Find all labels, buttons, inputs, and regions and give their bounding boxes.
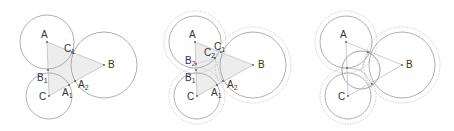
panel-3: A B C	[315, 11, 440, 124]
triangle-abc-shading	[47, 42, 104, 96]
label-b: B	[258, 59, 265, 70]
point-a	[345, 41, 347, 43]
label-c1: C1	[214, 41, 225, 53]
point-b	[252, 64, 254, 66]
point-a	[194, 41, 196, 43]
label-c: C	[338, 91, 345, 102]
three-circles-figure: A B C C1 B1 A1 A2 A B C C1 C2 B2	[0, 0, 454, 131]
segment-ab	[346, 42, 402, 65]
point-a2	[74, 80, 76, 82]
point-c	[48, 95, 50, 97]
point-tangent-3	[371, 83, 373, 85]
label-b2: B2	[185, 55, 196, 67]
point-c	[196, 95, 198, 97]
point-a	[46, 41, 48, 43]
segment-ac	[346, 42, 348, 96]
label-a2: A2	[227, 79, 238, 91]
label-c: C	[187, 91, 194, 102]
segment-center-b1	[361, 52, 368, 70]
label-a: A	[340, 29, 347, 40]
label-b: B	[108, 59, 115, 70]
label-a1: A1	[211, 87, 222, 99]
label-b: B	[406, 59, 413, 70]
point-a1	[68, 84, 70, 86]
label-b1: B1	[185, 72, 196, 84]
point-b1	[47, 69, 49, 71]
point-tangent-2	[346, 67, 348, 69]
panel-1: A B C C1 B1 A1 A2	[20, 15, 137, 119]
point-c	[347, 95, 349, 97]
point-tangent-1	[367, 51, 369, 53]
label-a: A	[41, 29, 48, 40]
point-b1	[195, 69, 197, 71]
label-a2: A2	[78, 79, 89, 91]
point-b	[103, 64, 105, 66]
point-b	[401, 64, 403, 66]
label-c: C	[39, 91, 46, 102]
label-a: A	[189, 29, 196, 40]
point-a1	[216, 84, 218, 86]
label-b1: B1	[37, 72, 48, 84]
point-a2	[222, 80, 224, 82]
panel-2: A B C C1 C2 B2 B1 A1 A2	[164, 11, 291, 124]
